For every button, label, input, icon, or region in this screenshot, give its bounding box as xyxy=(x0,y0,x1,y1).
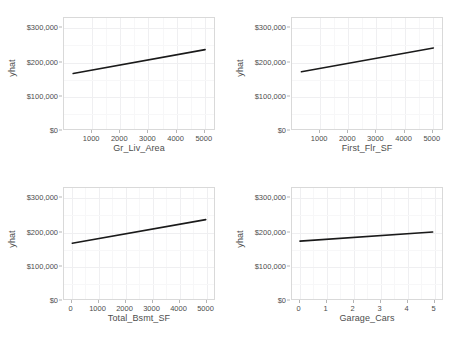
x-tick-mark xyxy=(380,300,381,303)
plot-panel xyxy=(63,187,215,300)
y-tick-mark xyxy=(287,130,290,131)
x-tick-label: 4000 xyxy=(395,134,412,143)
y-tick-labels: $0$100,000$200,000$300,000 xyxy=(244,187,290,300)
x-tick-label: 0 xyxy=(296,304,300,313)
x-tick-label: 5000 xyxy=(197,304,214,313)
x-tick-label: 3000 xyxy=(143,304,160,313)
y-tick-label: $300,000 xyxy=(255,23,286,32)
x-tick-mark xyxy=(434,300,435,303)
facet-gr-liv-area: yhat $0$100,000$200,000$300,000 10002000… xyxy=(0,0,228,170)
y-tick-label: $0 xyxy=(278,126,286,135)
line-series-svg xyxy=(292,18,442,129)
x-tick-label: 1000 xyxy=(83,134,100,143)
trend-line xyxy=(72,220,205,244)
y-tick-mark xyxy=(59,61,62,62)
y-tick-label: $200,000 xyxy=(27,227,58,236)
line-series-svg xyxy=(64,18,214,129)
trend-line xyxy=(301,48,433,72)
y-tick-mark xyxy=(59,265,62,266)
facet-garage-cars: yhat $0$100,000$200,000$300,000 012345 G… xyxy=(228,170,456,341)
x-tick-labels: 012345 xyxy=(291,300,443,314)
y-tick-label: $0 xyxy=(50,126,58,135)
x-tick-labels: 010002000300040005000 xyxy=(63,300,215,314)
x-tick-mark xyxy=(71,300,72,303)
x-axis-title: Gr_Liv_Area xyxy=(63,143,215,153)
y-tick-mark xyxy=(59,197,62,198)
x-tick-mark xyxy=(299,300,300,303)
y-tick-labels: $0$100,000$200,000$300,000 xyxy=(16,17,62,130)
y-tick-label: $100,000 xyxy=(27,261,58,270)
x-axis-title: First_Flr_SF xyxy=(291,143,443,153)
y-tick-label: $100,000 xyxy=(255,261,286,270)
x-tick-labels: 10002000300040005000 xyxy=(291,130,443,144)
x-tick-mark xyxy=(353,300,354,303)
y-tick-mark xyxy=(59,231,62,232)
plot-panel xyxy=(291,187,443,300)
y-tick-label: $0 xyxy=(278,296,286,305)
y-tick-label: $200,000 xyxy=(27,57,58,66)
x-tick-label: 3000 xyxy=(367,134,384,143)
x-tick-label: 2000 xyxy=(111,134,128,143)
x-tick-label: 5 xyxy=(431,304,435,313)
y-tick-label: $0 xyxy=(50,296,58,305)
line-series-svg xyxy=(64,188,214,299)
x-tick-mark xyxy=(319,130,320,133)
x-axis-title: Garage_Cars xyxy=(291,313,443,323)
y-tick-mark xyxy=(287,61,290,62)
x-tick-mark xyxy=(204,130,205,133)
y-tick-mark xyxy=(287,300,290,301)
trend-line xyxy=(300,232,433,241)
x-tick-mark xyxy=(91,130,92,133)
x-tick-mark xyxy=(125,300,126,303)
x-tick-mark xyxy=(176,130,177,133)
x-tick-label: 0 xyxy=(68,304,72,313)
y-tick-labels: $0$100,000$200,000$300,000 xyxy=(244,17,290,130)
x-tick-label: 1000 xyxy=(89,304,106,313)
y-tick-label: $200,000 xyxy=(255,227,286,236)
y-tick-mark xyxy=(287,231,290,232)
x-tick-mark xyxy=(326,300,327,303)
x-tick-mark xyxy=(147,130,148,133)
y-tick-mark xyxy=(287,27,290,28)
facet-grid: yhat $0$100,000$200,000$300,000 10002000… xyxy=(0,0,456,341)
x-tick-mark xyxy=(119,130,120,133)
x-tick-label: 4000 xyxy=(170,304,187,313)
x-tick-label: 1000 xyxy=(311,134,328,143)
y-tick-label: $300,000 xyxy=(27,23,58,32)
x-tick-label: 2 xyxy=(350,304,354,313)
y-tick-mark xyxy=(59,300,62,301)
plot-panel xyxy=(291,17,443,130)
x-tick-label: 4000 xyxy=(167,134,184,143)
y-tick-label: $100,000 xyxy=(255,91,286,100)
trend-line xyxy=(73,50,205,74)
y-tick-label: $200,000 xyxy=(255,57,286,66)
y-tick-mark xyxy=(59,95,62,96)
x-tick-mark xyxy=(98,300,99,303)
x-tick-label: 3 xyxy=(377,304,381,313)
y-tick-label: $300,000 xyxy=(27,193,58,202)
plot-panel xyxy=(63,17,215,130)
y-tick-mark xyxy=(287,197,290,198)
y-tick-mark xyxy=(59,27,62,28)
facet-total-bsmt-sf: yhat $0$100,000$200,000$300,000 01000200… xyxy=(0,170,228,341)
x-tick-labels: 10002000300040005000 xyxy=(63,130,215,144)
y-tick-label: $100,000 xyxy=(27,91,58,100)
y-tick-mark xyxy=(59,130,62,131)
x-tick-label: 1 xyxy=(323,304,327,313)
x-tick-mark xyxy=(152,300,153,303)
x-tick-label: 4 xyxy=(404,304,408,313)
x-tick-label: 5000 xyxy=(195,134,212,143)
x-tick-label: 2000 xyxy=(116,304,133,313)
x-tick-mark xyxy=(206,300,207,303)
x-tick-mark xyxy=(407,300,408,303)
y-tick-mark xyxy=(287,265,290,266)
x-tick-mark xyxy=(404,130,405,133)
figure-canvas: yhat $0$100,000$200,000$300,000 10002000… xyxy=(0,0,456,341)
x-tick-mark xyxy=(347,130,348,133)
y-tick-mark xyxy=(287,95,290,96)
x-axis-title: Total_Bsmt_SF xyxy=(63,313,215,323)
y-tick-labels: $0$100,000$200,000$300,000 xyxy=(16,187,62,300)
line-series-svg xyxy=(292,188,442,299)
x-tick-mark xyxy=(375,130,376,133)
x-tick-label: 3000 xyxy=(139,134,156,143)
